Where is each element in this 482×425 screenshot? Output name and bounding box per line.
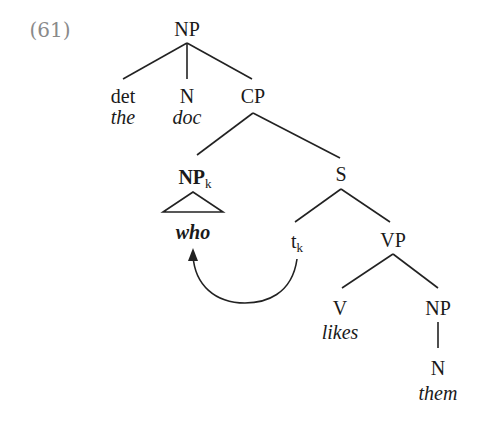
node-trace: tk — [291, 231, 303, 254]
node-np-k: NPk — [178, 167, 211, 190]
node-n-obj: N — [431, 358, 445, 378]
example-number: (61) — [29, 20, 70, 40]
np-k-label: NP — [178, 166, 205, 188]
word-who: who — [176, 222, 210, 242]
node-cp: CP — [241, 86, 265, 106]
node-det: det — [111, 86, 135, 106]
word-likes: likes — [322, 322, 359, 342]
word-doc: doc — [173, 107, 202, 127]
node-v: V — [333, 298, 347, 318]
tree-branches — [0, 0, 482, 425]
node-np-obj: NP — [425, 298, 451, 318]
word-the: the — [111, 107, 135, 127]
node-s: S — [335, 164, 346, 184]
arrowhead-icon — [188, 248, 198, 261]
word-them: them — [419, 383, 458, 403]
node-np-root: NP — [174, 19, 200, 39]
np-k-index: k — [205, 176, 212, 191]
syntax-tree-diagram: (61) NP det the N doc CP NPk who S tk VP… — [0, 0, 482, 425]
trace-index: k — [297, 240, 304, 255]
node-n: N — [180, 86, 194, 106]
node-vp: VP — [380, 230, 406, 250]
